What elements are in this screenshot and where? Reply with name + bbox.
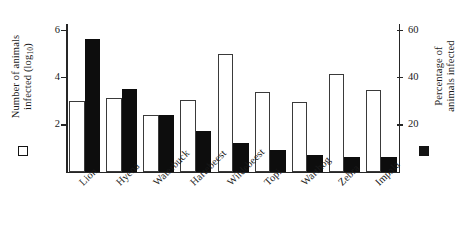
bar-chart: Number of animals infected (log10) Perce… [0,0,467,241]
bar-open-waterbuck [143,115,159,172]
bar-group [106,24,137,172]
left-tick-label-2: 2 [44,118,60,129]
left-axis-title-line2: infected (log10) [22,21,35,133]
right-axis-title-line2: animals infected [445,20,457,132]
left-axis-title-line1: Number of animals [10,21,22,133]
left-tick-label-6: 6 [44,24,60,35]
bar-group [366,24,397,172]
legend-filled-square-icon [419,146,429,156]
bar-open-lion [69,101,85,172]
bar-group [69,24,100,172]
right-tick-label-40: 40 [408,71,426,82]
left-tick-label-4: 4 [44,71,60,82]
left-axis-title: Number of animals infected (log10) [10,21,35,133]
bar-open-zebra [329,74,345,172]
bar-filled-lion [85,39,101,171]
right-tick-label-60: 60 [408,24,426,35]
right-axis-title-line1: Percentage of [433,20,445,132]
right-axis-title: Percentage of animals infected [433,20,457,132]
legend-open-square-icon [18,146,28,156]
bar-open-warthog [292,102,308,172]
plot-area: 246 204060 [66,24,400,173]
bar-open-impala [366,90,382,171]
bar-group [292,24,323,172]
bar-filled-hyena [122,89,138,172]
bar-open-hyena [106,98,122,171]
right-tick-label-20: 20 [408,118,426,129]
category-axis-labels: LionHyenaWaterbuckHartebeestWildebeestTo… [0,178,467,241]
bars-container [66,24,400,172]
bar-group [143,24,174,172]
bar-group [329,24,360,172]
left-axis-title-subscript: 10 [26,47,35,55]
